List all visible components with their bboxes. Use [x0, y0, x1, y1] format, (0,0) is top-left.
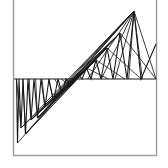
- figure-container: [0, 0, 168, 168]
- figure-background: [0, 0, 168, 168]
- string-art-figure: [0, 0, 168, 168]
